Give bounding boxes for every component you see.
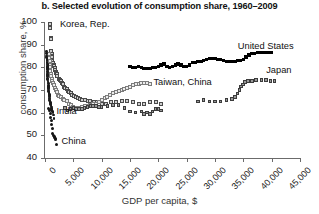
y-tick — [41, 135, 45, 136]
data-point — [125, 99, 129, 103]
x-tick — [300, 158, 301, 162]
data-point — [54, 138, 57, 141]
data-point — [106, 104, 110, 108]
x-tick — [158, 158, 159, 162]
data-point — [202, 98, 206, 102]
data-point — [148, 82, 152, 86]
data-point — [154, 100, 158, 104]
data-point — [148, 100, 152, 104]
y-tick-label: 70 — [5, 84, 37, 94]
data-point — [55, 143, 58, 146]
data-point — [100, 105, 104, 109]
data-point — [134, 111, 138, 115]
series-label-india: India — [57, 106, 77, 116]
consumption-share-chart-figure: b. Selected evolution of consumption sha… — [0, 0, 319, 214]
x-tick — [187, 158, 188, 162]
y-tick-label: 60 — [5, 107, 37, 117]
data-point — [219, 100, 223, 104]
data-point — [236, 92, 240, 96]
data-point — [233, 95, 237, 99]
data-point — [159, 102, 163, 106]
y-tick-label: 80 — [5, 61, 37, 71]
plot-area: 405060708090100 05,00010,00015,00020,000… — [45, 22, 300, 158]
y-tick-label: 50 — [5, 129, 37, 139]
data-point — [128, 110, 132, 114]
series-label-china: China — [62, 136, 86, 146]
data-point — [159, 109, 163, 113]
data-point — [50, 119, 53, 122]
data-point — [254, 78, 258, 82]
data-point — [49, 112, 52, 115]
x-tick — [130, 158, 131, 162]
data-point — [213, 100, 217, 104]
x-tick — [102, 158, 103, 162]
data-point — [238, 88, 242, 92]
data-point — [52, 114, 55, 117]
data-point — [142, 102, 146, 106]
y-tick — [41, 22, 45, 23]
data-point — [117, 103, 121, 107]
series-label-united-states: United States — [238, 41, 294, 51]
data-point — [51, 127, 54, 130]
data-point — [131, 100, 135, 104]
series-label-japan: Japan — [266, 65, 291, 75]
y-tick-label: 40 — [5, 152, 37, 162]
x-tick — [73, 158, 74, 162]
x-tick — [243, 158, 244, 162]
series-label-taiwan-china: Taiwan, China — [153, 77, 211, 87]
y-tick-label: 100 — [5, 16, 37, 26]
y-tick — [41, 113, 45, 114]
data-point — [137, 102, 141, 106]
data-point — [123, 106, 127, 110]
data-point — [53, 117, 56, 120]
data-point — [50, 123, 53, 126]
y-tick — [41, 67, 45, 68]
data-point — [48, 26, 52, 30]
data-point — [260, 78, 264, 82]
data-point — [225, 98, 229, 102]
y-tick-label: 90 — [5, 39, 37, 49]
data-point — [270, 51, 273, 54]
x-tick — [215, 158, 216, 162]
data-point — [196, 100, 200, 104]
x-tick — [272, 158, 273, 162]
series-label-korea-rep: Korea, Rep. — [60, 19, 110, 29]
data-point — [111, 103, 115, 107]
data-point — [48, 59, 52, 63]
data-point — [273, 79, 277, 83]
data-point — [49, 37, 53, 41]
data-point — [264, 78, 268, 82]
data-point — [208, 100, 212, 104]
page-title: b. Selected evolution of consumption sha… — [0, 1, 319, 11]
x-axis-line — [44, 158, 301, 159]
x-tick — [45, 158, 46, 162]
y-tick — [41, 90, 45, 91]
y-tick — [41, 45, 45, 46]
